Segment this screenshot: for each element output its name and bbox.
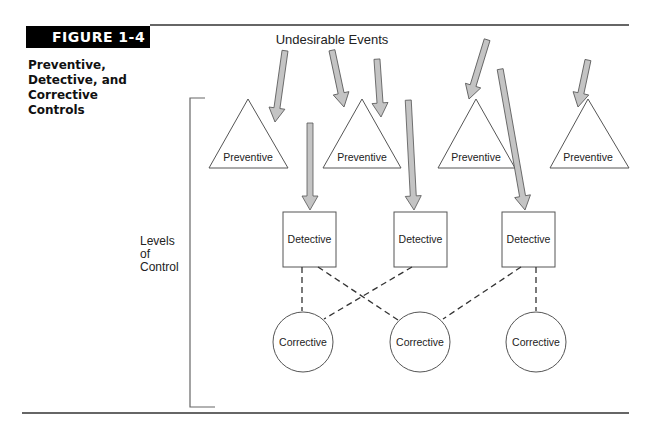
arrow-down-icon [570,58,596,108]
arrow-down-icon [400,100,422,211]
preventive-node: Preventive [323,99,401,168]
svg-text:Detective: Detective [399,233,443,245]
svg-text:Preventive: Preventive [223,151,273,163]
svg-text:Detective: Detective [507,233,551,245]
controls-diagram: Undesirable Events Levels of Control Pre… [0,0,650,426]
corrective-node: Corrective [390,312,450,372]
detective-node: Detective [502,212,555,267]
preventive-node: Preventive [438,99,515,168]
arrow-down-icon [369,59,389,118]
svg-text:Preventive: Preventive [337,151,387,163]
svg-text:Preventive: Preventive [451,151,501,163]
detective-node: Detective [394,212,447,267]
svg-text:Corrective: Corrective [396,336,444,348]
arrow-down-icon [324,49,352,109]
arrow-down-icon [267,50,293,124]
corrective-node: Corrective [506,312,566,372]
arrow-down-icon [461,37,494,101]
diagram-title: Undesirable Events [276,32,389,47]
event-arrows [267,37,596,211]
levels-bracket [190,98,215,407]
svg-text:Detective: Detective [288,233,332,245]
detective-node: Detective [283,212,336,267]
corrective-node: Corrective [273,312,333,372]
preventive-node: Preventive [550,99,629,168]
svg-text:Corrective: Corrective [512,336,560,348]
arrow-down-icon [302,123,318,210]
svg-text:Corrective: Corrective [279,336,327,348]
levels-label: Levels of Control [140,234,179,274]
svg-text:Preventive: Preventive [563,151,613,163]
